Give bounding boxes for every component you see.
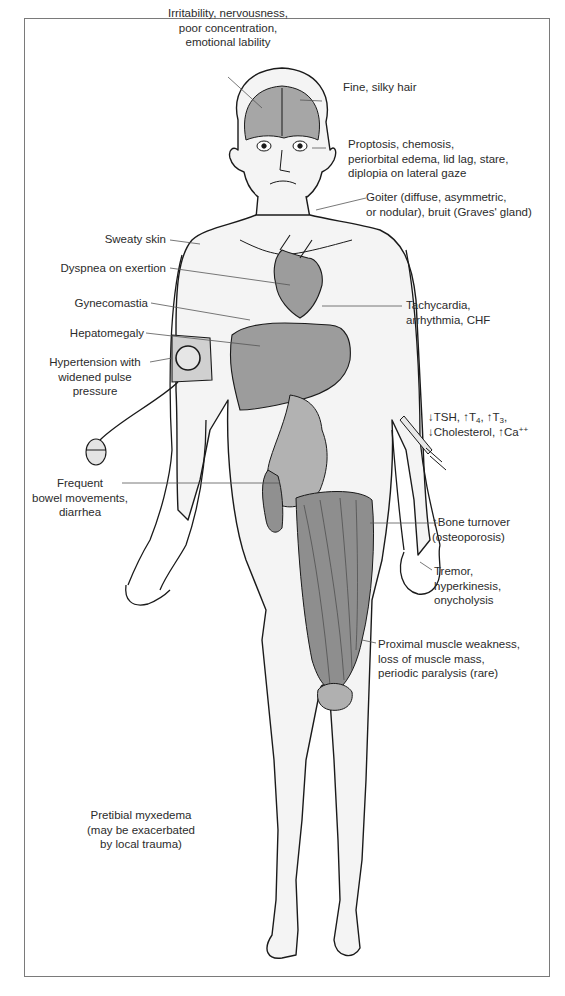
label-dyspnea: Dyspnea on exertion: [36, 261, 166, 276]
label-muscle-weakness: Proximal muscle weakness, loss of muscle…: [378, 637, 520, 681]
lab-line-1: ↓TSH, ↑T4, ↑T3,: [428, 410, 528, 425]
label-tremor: Tremor, hyperkinesis, onycholysis: [434, 564, 501, 608]
label-gynecomastia: Gynecomastia: [40, 296, 148, 311]
label-goiter: Goiter (diffuse, asymmetric, or nodular)…: [366, 190, 532, 219]
label-hair: Fine, silky hair: [343, 80, 417, 95]
label-pretibial-myxedema: Pretibial myxedema (may be exacerbated b…: [76, 808, 206, 852]
label-hepatomegaly: Hepatomegaly: [40, 326, 144, 341]
lab-line-2: ↓Cholesterol, ↑Ca++: [428, 425, 528, 440]
label-irritability: Irritability, nervousness, poor concentr…: [130, 6, 326, 50]
label-tachycardia: Tachycardia, arrhythmia, CHF: [406, 298, 490, 327]
label-sweaty-skin: Sweaty skin: [60, 232, 166, 247]
label-bowel: Frequent bowel movements, diarrhea: [30, 476, 130, 520]
knee: [318, 683, 353, 710]
left-hand: [126, 585, 170, 605]
label-eyes: Proptosis, chemosis, periorbital edema, …: [348, 137, 508, 181]
label-hypertension: Hypertension with widened pulse pressure: [44, 355, 146, 399]
label-bone-turnover: ↑Bone turnover (osteoporosis): [432, 515, 510, 544]
label-lab-values: ↓TSH, ↑T4, ↑T3, ↓Cholesterol, ↑Ca++: [428, 410, 528, 439]
